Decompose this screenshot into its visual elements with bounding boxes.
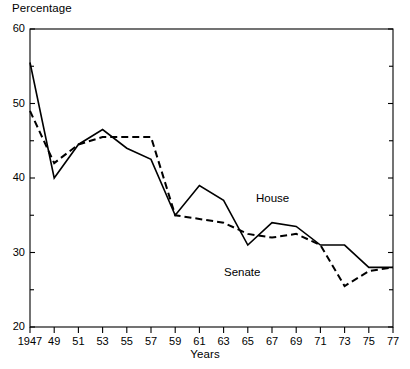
y-tick-label: 50: [0, 97, 25, 109]
y-tick-label: 40: [0, 171, 25, 183]
axis-ticks: [30, 29, 393, 333]
axes-frame: [30, 29, 393, 327]
y-tick-label: 20: [0, 320, 25, 332]
series-line-house: [30, 63, 393, 268]
chart-container: Percentage Years House Senate 2030405060…: [0, 0, 410, 369]
plot-area: [0, 0, 410, 369]
y-tick-label: 60: [0, 22, 25, 34]
series-line-senate: [30, 111, 393, 286]
y-tick-label: 30: [0, 246, 25, 258]
x-tick-label: 77: [376, 335, 410, 347]
data-series-group: [30, 63, 393, 286]
